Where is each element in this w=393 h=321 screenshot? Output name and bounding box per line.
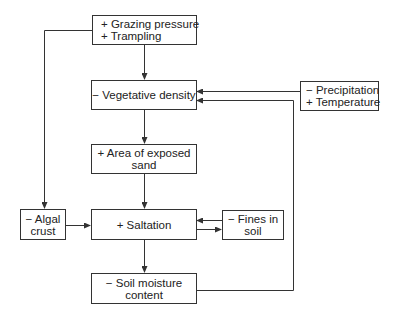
node-label-line: + Saltation	[117, 219, 172, 231]
arrow-moisture-to-vegetative	[196, 101, 294, 291]
node-label-line: − Soil moisture	[106, 277, 182, 289]
node-label-line: + Trampling	[101, 30, 161, 42]
node-label-line: + Grazing pressure	[101, 18, 199, 30]
node-label-line: sand	[132, 159, 157, 171]
arrow-grazing-to-algal	[45, 31, 93, 209]
node-soil-moisture-content: − Soil moisture content	[91, 273, 197, 304]
node-fines-in-soil: − Fines in soil	[222, 210, 284, 240]
node-label-line: content	[125, 289, 163, 301]
node-saltation: + Saltation	[91, 209, 197, 240]
node-label-line: − Fines in	[228, 213, 278, 225]
node-vegetative-density: − Vegetative density	[91, 80, 197, 110]
node-label-line: − Algal	[26, 213, 61, 225]
node-label-line: + Area of exposed	[97, 147, 190, 159]
node-label-line: − Precipitation	[306, 84, 379, 96]
node-label-line: − Vegetative density	[92, 89, 195, 101]
node-grazing-pressure: + Grazing pressure + Trampling	[92, 15, 197, 45]
node-label-line: soil	[244, 225, 261, 237]
node-area-exposed-sand: + Area of exposed sand	[91, 144, 197, 174]
node-label-line: + Temperature	[306, 96, 380, 108]
node-precipitation-temperature: − Precipitation + Temperature	[300, 81, 379, 111]
node-label-line: crust	[31, 225, 56, 237]
node-algal-crust: − Algal crust	[20, 209, 66, 240]
